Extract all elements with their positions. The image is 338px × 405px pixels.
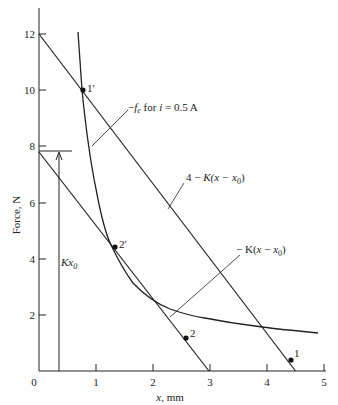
y-tick-4: 4 bbox=[30, 253, 36, 265]
x-tick-3: 3 bbox=[207, 376, 213, 388]
kx0-label: Kx0 bbox=[60, 256, 77, 271]
point-1 bbox=[288, 357, 293, 362]
y-tick-10: 10 bbox=[24, 84, 36, 96]
fe-leader bbox=[92, 110, 128, 146]
y-ticks bbox=[39, 34, 46, 315]
fe-label: −fe for i = 0.5 A bbox=[128, 101, 198, 115]
point-1-label: 1 bbox=[294, 347, 300, 359]
y-tick-8: 8 bbox=[30, 140, 36, 152]
y-tick-6: 6 bbox=[30, 197, 36, 209]
y-tick-2: 2 bbox=[30, 309, 36, 321]
point-2-prime-label: 2′ bbox=[119, 238, 127, 250]
x-ticks bbox=[96, 364, 324, 371]
force-displacement-chart: 2 4 6 8 10 12 0 1 2 3 4 5 Force, N x, mm… bbox=[0, 0, 338, 405]
y-tick-12: 12 bbox=[24, 28, 35, 40]
x-tick-0: 0 bbox=[31, 376, 37, 388]
line1-label: 4 − K(x − x0) bbox=[186, 171, 245, 186]
point-1-prime-label: 1′ bbox=[87, 82, 95, 94]
x-tick-1: 1 bbox=[93, 376, 99, 388]
x-tick-2: 2 bbox=[150, 376, 156, 388]
x-tick-5: 5 bbox=[321, 376, 327, 388]
line2-leader bbox=[170, 255, 240, 317]
point-2-label: 2 bbox=[190, 327, 196, 339]
line1-leader bbox=[168, 183, 184, 209]
x-axis-label: x, mm bbox=[155, 391, 184, 403]
line2-label: − K(x − x0) bbox=[236, 243, 286, 258]
point-2-prime bbox=[112, 244, 117, 249]
x-tick-4: 4 bbox=[264, 376, 270, 388]
point-2 bbox=[183, 335, 188, 340]
point-1-prime bbox=[80, 87, 85, 92]
y-axis-label: Force, N bbox=[10, 196, 22, 235]
